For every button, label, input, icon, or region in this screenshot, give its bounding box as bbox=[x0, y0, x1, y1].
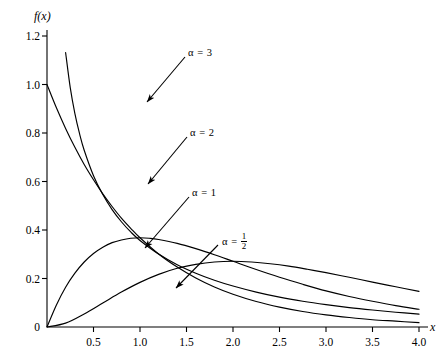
alpha-1-annotation: α = 1 bbox=[192, 187, 216, 198]
curve-alpha-1 bbox=[47, 85, 419, 323]
x-tick-label: 1.5 bbox=[179, 336, 193, 348]
x-tick-label: 2.0 bbox=[226, 336, 240, 348]
y-tick-label: 1.0 bbox=[4, 79, 40, 91]
alpha-value-text: 1 bbox=[211, 187, 216, 198]
x-axis-ticks bbox=[94, 327, 420, 332]
alpha-2-annotation: α = 2 bbox=[190, 127, 214, 138]
alpha-3-annotation: α = 3 bbox=[188, 47, 212, 58]
x-axis-label: x bbox=[430, 320, 435, 335]
alpha-half-annotation: α = 12 bbox=[222, 233, 247, 253]
y-tick-label: 0.4 bbox=[4, 224, 40, 236]
alpha-value-text: 2 bbox=[209, 127, 214, 138]
annotation-arrows-group bbox=[145, 57, 218, 288]
fraction-denominator: 2 bbox=[241, 241, 248, 251]
alpha-3-annotation-arrow bbox=[147, 57, 185, 102]
density-curves-group bbox=[47, 52, 419, 327]
x-tick-label: 3.5 bbox=[365, 336, 379, 348]
fraction-one-half: 12 bbox=[241, 232, 248, 252]
y-tick-label: 1.2 bbox=[4, 30, 40, 42]
x-tick-label: 4.0 bbox=[412, 336, 426, 348]
curve-alpha-one-half bbox=[66, 52, 419, 314]
axes-group bbox=[47, 30, 428, 327]
y-tick-label: 0.8 bbox=[4, 127, 40, 139]
alpha-equals-text: α = bbox=[190, 127, 209, 138]
y-axis-label: f(x) bbox=[34, 9, 51, 24]
alpha-equals-text: α = bbox=[188, 47, 207, 58]
alpha-2-annotation-arrow bbox=[148, 137, 187, 184]
alpha-value-text: 3 bbox=[207, 47, 212, 58]
y-tick-label: 0.6 bbox=[4, 176, 40, 188]
alpha-1-annotation-arrow bbox=[145, 197, 189, 248]
alpha-equals-text: α = bbox=[222, 236, 241, 247]
x-tick-label: 3.0 bbox=[319, 336, 333, 348]
chart-canvas bbox=[0, 0, 445, 357]
x-tick-label: 0.5 bbox=[86, 336, 100, 348]
alpha-equals-text: α = bbox=[192, 187, 211, 198]
x-tick-label: 2.5 bbox=[272, 336, 286, 348]
y-axis-ticks bbox=[42, 36, 47, 279]
y-tick-label: 0.2 bbox=[4, 273, 40, 285]
fraction-numerator: 1 bbox=[241, 232, 248, 241]
x-tick-label: 1.0 bbox=[133, 336, 147, 348]
gamma-density-figure: f(x) x 0 0.51.01.52.02.53.03.54.00.20.40… bbox=[0, 0, 445, 357]
y-tick-label-zero: 0 bbox=[30, 321, 40, 333]
